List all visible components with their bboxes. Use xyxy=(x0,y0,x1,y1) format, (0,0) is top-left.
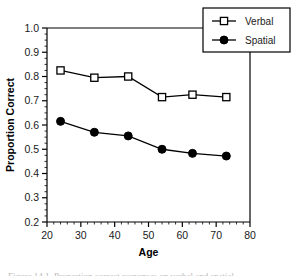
series-line-spatial xyxy=(61,121,227,156)
y-tick-label: 0.8 xyxy=(24,70,39,82)
data-point-spatial xyxy=(57,117,65,125)
figure-caption: Figure 14.1. Proportion correct response… xyxy=(8,266,288,276)
data-point-spatial xyxy=(124,132,132,140)
legend-label-spatial: Spatial xyxy=(245,35,276,46)
legend-label-verbal: Verbal xyxy=(245,16,273,27)
x-tick-label: 50 xyxy=(143,229,155,241)
y-tick-label: 0.9 xyxy=(24,46,39,58)
y-tick-label: 0.7 xyxy=(24,94,39,106)
x-axis-title: Age xyxy=(139,246,159,258)
x-tick-label: 20 xyxy=(41,229,53,241)
figure-container: 0.20.30.40.50.60.70.80.91.02030405060708… xyxy=(0,0,296,276)
x-tick-label: 40 xyxy=(109,229,121,241)
data-point-verbal xyxy=(57,67,64,74)
data-point-verbal xyxy=(158,94,165,101)
y-tick-label: 0.2 xyxy=(24,216,39,228)
legend-marker-filled-circle-icon xyxy=(220,36,228,44)
data-point-spatial xyxy=(90,128,98,136)
x-axis-ticks xyxy=(47,222,250,227)
series-spatial xyxy=(57,117,231,160)
y-tick-label: 0.5 xyxy=(24,143,39,155)
data-point-verbal xyxy=(91,74,98,81)
data-point-verbal xyxy=(125,73,132,80)
data-point-verbal xyxy=(189,91,196,98)
data-point-spatial xyxy=(158,145,166,153)
data-point-verbal xyxy=(223,94,230,101)
x-tick-label: 80 xyxy=(244,229,256,241)
plot-frame xyxy=(47,28,250,222)
x-tick-label: 60 xyxy=(176,229,188,241)
y-tick-label: 0.3 xyxy=(24,191,39,203)
x-tick-label: 70 xyxy=(210,229,222,241)
series-verbal xyxy=(57,67,230,101)
y-axis-ticks xyxy=(42,28,47,222)
x-tick-label: 30 xyxy=(75,229,87,241)
series-line-verbal xyxy=(61,70,227,97)
y-tick-label: 1.0 xyxy=(24,22,39,34)
data-point-spatial xyxy=(188,149,196,157)
legend: VerbalSpatial xyxy=(203,8,290,52)
data-point-spatial xyxy=(222,152,230,160)
y-tick-label: 0.6 xyxy=(24,119,39,131)
y-axis-title: Proportion Correct xyxy=(4,78,16,172)
legend-marker-open-square-icon xyxy=(220,17,227,24)
y-tick-label: 0.4 xyxy=(24,167,39,179)
proportion-correct-line-chart: 0.20.30.40.50.60.70.80.91.02030405060708… xyxy=(0,0,296,276)
